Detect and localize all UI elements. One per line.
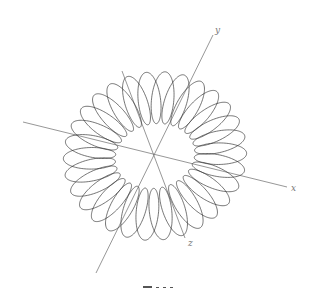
axes (23, 35, 287, 273)
y-axis-label: y (214, 25, 221, 35)
toroidal-helix-figure: x y z (0, 0, 312, 289)
caption-glyph-fragment (156, 287, 159, 288)
x-axis-label: x (291, 183, 296, 193)
caption-stub (143, 286, 173, 288)
z-axis-line (122, 71, 185, 238)
y-axis-line (96, 35, 213, 273)
z-axis-label: z (187, 238, 193, 248)
x-axis-line (23, 122, 287, 187)
caption-glyph-fragment (143, 286, 152, 288)
axis-labels: x y z (187, 25, 296, 248)
caption-glyph-fragment (163, 287, 166, 288)
toroidal-helix-curve (63, 72, 246, 240)
caption-glyph-fragment (170, 287, 173, 288)
